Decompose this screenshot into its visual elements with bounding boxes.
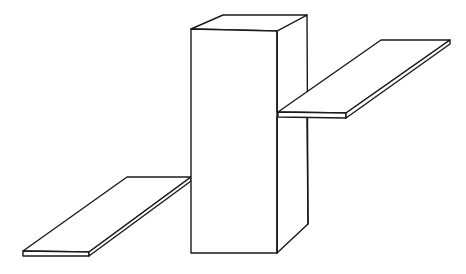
box-and-planks-drawing [0,0,466,274]
figure-canvas [0,0,466,274]
box-back-edge [307,118,308,224]
plank-left [23,177,191,256]
box [191,15,308,253]
